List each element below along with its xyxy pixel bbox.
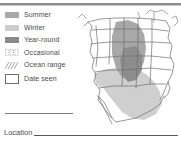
top-divider-hairline [0,5,181,6]
legend-item-summer: Summer [5,9,77,22]
legend-item-winter: Winter [5,22,77,35]
legend-label-winter: Winter [21,24,45,32]
legend-item-date-seen[interactable]: Date seen [5,72,77,86]
occasional-dotted-icon [5,49,21,56]
location-field-row[interactable]: Location [4,128,178,137]
legend-item-occasional: Occasional [5,47,77,60]
north-america-range-map [76,8,180,124]
location-label: Location [4,128,32,137]
range-map-page: Summer Winter Year-round [0,0,181,144]
ocean-range-hatch-icon [5,62,21,69]
summer-swatch-icon [5,12,21,18]
legend-label-occasional: Occasional [21,49,60,57]
location-input-line[interactable] [34,135,178,136]
legend-divider [5,113,73,114]
legend-label-year-round: Year-round [21,36,59,44]
date-seen-box-icon[interactable] [5,74,21,84]
legend-label-summer: Summer [21,11,51,19]
year-round-swatch-icon [5,37,21,43]
legend-item-year-round: Year-round [5,34,77,47]
legend-label-date-seen: Date seen [21,75,57,83]
map-legend: Summer Winter Year-round [5,9,77,86]
legend-label-ocean-range: Ocean range [21,61,66,69]
legend-item-ocean-range: Ocean range [5,59,77,72]
winter-swatch-icon [5,25,21,31]
